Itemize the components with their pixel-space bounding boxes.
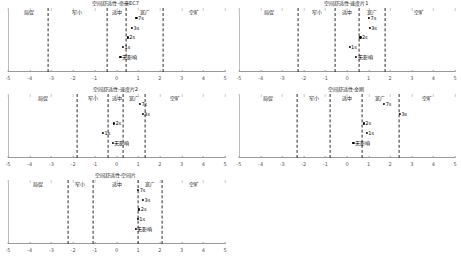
x-axis-tick <box>181 70 182 73</box>
zone-label-4: 宽广 <box>145 181 155 187</box>
x-axis-tick-label: 0 <box>345 161 348 167</box>
x-axis-tick-top <box>203 180 204 183</box>
x-axis-tick-label: 4 <box>432 161 435 167</box>
x-axis-tick <box>160 242 161 245</box>
y-axis-spine <box>8 180 9 244</box>
category-divider-4 <box>384 8 385 72</box>
x-axis-tick <box>203 156 204 159</box>
x-axis-tick <box>260 156 261 159</box>
category-divider-1 <box>48 8 49 72</box>
y-axis-spine <box>8 94 9 158</box>
x-axis-tick-top <box>181 94 182 97</box>
x-axis-tick <box>411 156 412 159</box>
category-divider-4 <box>162 180 163 244</box>
x-axis-tick-label: -4 <box>27 247 32 253</box>
figure-panel-grid: 空间舒适性-帝豪EC7-5-4-3-2-1012345局促窄小适中宽广空旷无影响… <box>0 0 461 258</box>
x-axis-tick <box>368 70 369 73</box>
x-axis-tick-label: -5 <box>237 75 242 81</box>
x-axis-tick <box>51 156 52 159</box>
x-axis-tick-label: 3 <box>410 75 413 81</box>
x-axis-tick <box>239 70 240 73</box>
x-axis-tick <box>411 70 412 73</box>
x-axis-tick <box>325 156 326 159</box>
x-axis-tick-label: -3 <box>280 75 285 81</box>
x-axis-tick-label: 1 <box>137 247 140 253</box>
x-axis-tick-top <box>225 180 226 183</box>
x-axis-tick <box>73 156 74 159</box>
y-axis-spine <box>8 8 9 72</box>
x-axis-tick-label: 3 <box>180 75 183 81</box>
x-axis-tick-top <box>455 94 456 97</box>
zone-label-2: 窄小 <box>72 9 82 15</box>
x-axis-tick-label: 1 <box>137 161 140 167</box>
x-axis-tick <box>455 70 456 73</box>
x-axis-tick <box>160 156 161 159</box>
x-axis-tick-label: 5 <box>223 75 226 81</box>
x-axis-tick <box>94 70 95 73</box>
x-axis-tick-top <box>94 8 95 11</box>
data-point-label: 7s <box>138 15 144 21</box>
category-divider-1 <box>298 8 299 72</box>
data-point-label: 3s <box>144 197 150 203</box>
x-axis-tick <box>116 70 117 73</box>
x-axis-tick <box>260 70 261 73</box>
x-axis-tick-top <box>29 180 30 183</box>
x-axis-tick-label: 5 <box>223 161 226 167</box>
x-axis-tick-label: -1 <box>92 247 97 253</box>
x-axis-tick-top <box>260 8 261 11</box>
x-axis-tick-top <box>181 8 182 11</box>
x-axis-tick-top <box>160 94 161 97</box>
plot-area: -5-4-3-2-1012345局促窄小适中宽广空旷无影响1s2s3s7s <box>8 8 225 72</box>
data-point-label: 无影响 <box>137 226 152 232</box>
x-axis-tick-top <box>8 180 9 183</box>
y-axis-spine <box>239 8 240 72</box>
x-axis-tick-label: -3 <box>49 247 54 253</box>
x-axis-tick <box>203 70 204 73</box>
category-divider-2 <box>329 94 330 158</box>
zone-label-4: 宽广 <box>140 9 150 15</box>
category-divider-3 <box>126 8 127 72</box>
data-point-label: 3s <box>401 111 407 117</box>
zone-label-2: 窄小 <box>75 181 85 187</box>
x-axis-tick-label: -2 <box>71 75 76 81</box>
data-point-label: 无影响 <box>355 140 370 146</box>
x-axis-tick-top <box>282 94 283 97</box>
zone-label-2: 窄小 <box>312 9 322 15</box>
y-axis-spine <box>239 94 240 158</box>
x-axis-tick-top <box>203 8 204 11</box>
x-axis-tick-label: 4 <box>432 75 435 81</box>
data-point-label: 7s <box>140 187 146 193</box>
x-axis-tick-label: -1 <box>92 75 97 81</box>
x-axis-tick-top <box>160 8 161 11</box>
x-axis-tick-top <box>390 94 391 97</box>
x-axis-tick-label: 2 <box>158 247 161 253</box>
data-point-label: 3s <box>371 25 377 31</box>
x-axis-tick-label: -5 <box>237 161 242 167</box>
x-axis-tick-label: -4 <box>27 75 32 81</box>
data-point-label: 2s <box>365 120 371 126</box>
x-axis-tick-top <box>455 8 456 11</box>
data-point-label: 7s <box>386 101 392 107</box>
zone-label-2: 窄小 <box>309 95 319 101</box>
data-point-label: 2s <box>115 120 121 126</box>
x-axis-tick-top <box>325 8 326 11</box>
x-axis-tick-top <box>325 94 326 97</box>
x-axis-tick-label: 5 <box>453 75 456 81</box>
data-point-label: 2s <box>141 206 147 212</box>
x-axis-tick-top <box>225 8 226 11</box>
x-axis-tick <box>390 70 391 73</box>
x-axis-tick <box>390 156 391 159</box>
panel-title: 空间舒适性-速度片2 <box>0 86 231 92</box>
category-divider-2 <box>335 8 336 72</box>
x-axis-tick-top <box>160 180 161 183</box>
x-axis-tick <box>347 70 348 73</box>
x-axis-tick-label: 5 <box>223 247 226 253</box>
x-axis-tick-label: 0 <box>115 75 118 81</box>
x-axis-tick-top <box>433 94 434 97</box>
data-point-label: 1s <box>351 44 357 50</box>
x-axis-tick-label: 5 <box>453 161 456 167</box>
x-axis-tick-top <box>181 180 182 183</box>
x-axis-tick-label: 1 <box>137 75 140 81</box>
x-axis-tick-label: 1 <box>367 161 370 167</box>
x-axis-tick <box>455 156 456 159</box>
